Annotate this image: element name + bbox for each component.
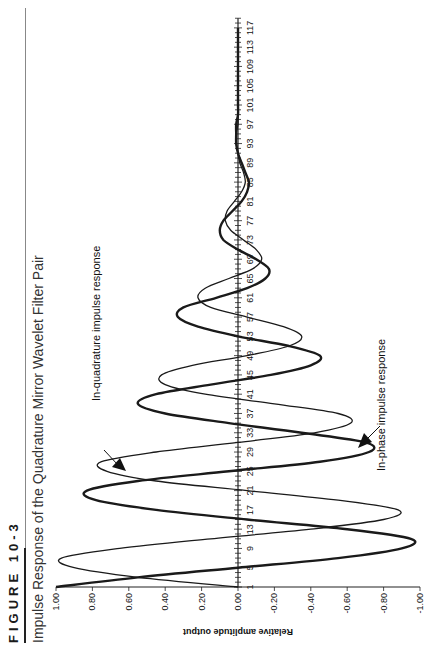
amplitude-tick-label: -0.60 — [342, 593, 352, 614]
in-quadrature-arrowhead-icon — [112, 458, 126, 471]
time-tick-label: 37 — [245, 408, 255, 418]
time-tick-label: 41 — [245, 389, 255, 399]
amplitude-tick-label: 0.00 — [233, 593, 243, 611]
time-tick-label: 61 — [245, 293, 255, 303]
in-quadrature-annotation: In-quadrature impulse response — [90, 246, 102, 401]
amplitude-tick-label: -1.00 — [415, 593, 425, 614]
amplitude-tick-label: 0.60 — [124, 593, 134, 611]
amplitude-tick-label: -0.20 — [269, 593, 279, 614]
time-tick-label: 33 — [245, 428, 255, 438]
time-tick-label: 65 — [245, 274, 255, 284]
time-tick-label: 73 — [245, 235, 255, 245]
time-tick-label: 117 — [245, 21, 255, 35]
time-tick-label: 97 — [245, 119, 255, 129]
time-tick-label: 93 — [245, 139, 255, 149]
amplitude-tick-label: -0.40 — [306, 593, 316, 614]
time-tick-label: 17 — [245, 505, 255, 515]
time-tick-label: 113 — [245, 40, 255, 54]
time-tick-label: 29 — [245, 447, 255, 457]
time-tick-label: 105 — [245, 78, 255, 93]
amplitude-tick-label: 0.80 — [87, 593, 97, 611]
amplitude-tick-label: 1.00 — [51, 593, 61, 611]
time-tick-label: 101 — [245, 97, 255, 112]
time-tick-label: 9 — [245, 546, 255, 551]
amplitude-tick-label: 0.40 — [160, 593, 170, 611]
time-tick-label: 13 — [245, 524, 255, 534]
time-tick-label: 109 — [245, 59, 255, 74]
time-tick-label: 77 — [245, 216, 255, 226]
amplitude-axis-title: Relative amplitude output — [183, 627, 293, 637]
chart: 1591317212529333741454953576165697377818… — [0, 0, 438, 651]
amplitude-axis: 1.000.800.600.400.200.00-0.20-0.40-0.60-… — [51, 587, 425, 637]
time-tick-label: 81 — [245, 196, 255, 206]
in-phase-annotation: In-phase impulse response — [375, 339, 387, 471]
figure-container: FIGURE 10-3 Impulse Response of the Quad… — [0, 0, 438, 651]
time-tick-label: 89 — [245, 158, 255, 168]
amplitude-tick-label: 0.20 — [197, 593, 207, 611]
amplitude-tick-label: -0.80 — [379, 593, 389, 614]
